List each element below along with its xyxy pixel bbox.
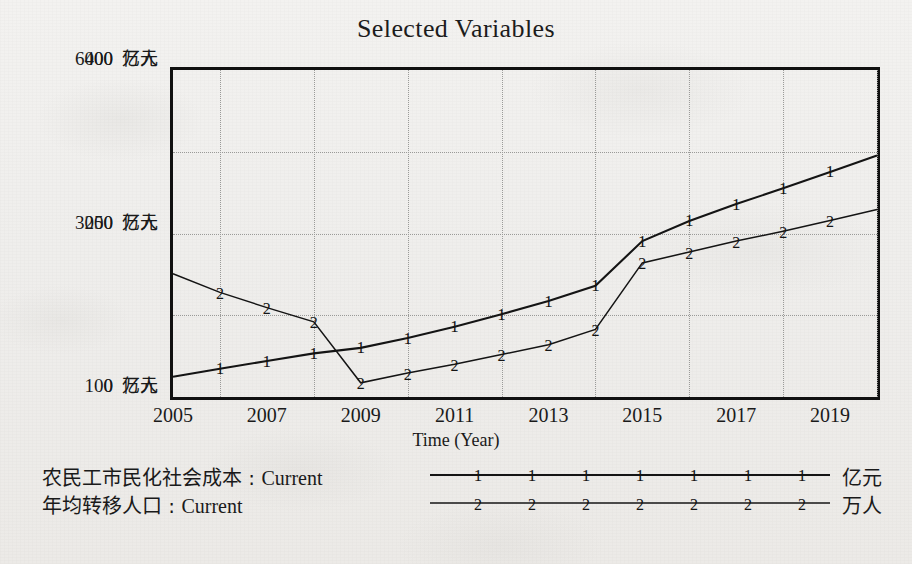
data-point-marker: 1 [263,352,272,371]
x-axis-tick-2015: 2015 [607,404,677,427]
chart-legend: 农民工市民化社会成本 : Current1111111亿元年均转移人口 : Cu… [42,462,882,518]
legend-marker: 2 [474,496,482,513]
legend-marker: 1 [528,466,537,485]
data-point-marker: 1 [403,329,412,348]
gridline-vertical [877,70,878,397]
x-axis-tick-2019: 2019 [795,404,865,427]
data-point-marker: 2 [591,322,599,339]
data-point-marker: 2 [544,337,552,354]
data-point-marker: 2 [826,213,834,230]
legend-marker: 2 [636,496,644,513]
legend-label: 农民工市民化社会成本 : Current [42,462,323,491]
data-point-marker: 1 [216,359,225,378]
data-point-marker: 1 [356,338,365,357]
data-point-marker: 2 [357,375,365,392]
y-axis-tick-right: 250万人 [6,212,166,233]
x-axis-title: Time (Year) [0,430,912,451]
data-point-marker: 1 [685,211,694,230]
data-point-marker: 2 [451,357,459,374]
legend-sample-line: 1111111 [430,462,830,488]
data-point-marker: 1 [310,344,319,363]
x-axis-tick-2009: 2009 [326,404,396,427]
legend-marker: 2 [690,496,698,513]
y-tick-value: 100 [55,375,113,396]
data-point-marker: 1 [591,276,600,295]
data-point-marker: 2 [779,224,787,241]
data-point-marker: 2 [310,314,318,331]
data-point-marker: 2 [638,255,646,272]
legend-marker: 2 [528,496,536,513]
legend-row[interactable]: 农民工市民化社会成本 : Current1111111亿元 [42,462,882,490]
x-axis-tick-2007: 2007 [232,404,302,427]
data-point-marker: 1 [497,305,506,324]
legend-marker: 1 [744,466,753,485]
data-point-marker: 1 [732,195,741,214]
data-point-marker: 2 [498,347,506,364]
legend-marker: 1 [582,466,591,485]
legend-marker: 2 [798,496,806,513]
data-point-marker: 1 [544,292,553,311]
legend-row[interactable]: 年均转移人口 : Current2222222万人 [42,490,882,518]
y-tick-unit: 万人 [113,375,166,396]
series-line-1 [173,156,877,377]
y-tick-value: 400 [55,48,113,69]
legend-marker: 1 [636,466,645,485]
x-axis-tick-2013: 2013 [513,404,583,427]
y-axis-tick-right: 400万人 [6,48,166,69]
data-point-marker: 1 [779,179,788,198]
data-point-marker: 2 [732,234,740,251]
y-tick-value: 250 [55,212,113,233]
legend-marker: 1 [798,466,807,485]
chart-figure: Selected Variables 6000亿元400万人3000亿元250万… [0,0,912,564]
y-axis-tick-right: 100万人 [6,375,166,396]
data-point-marker: 1 [826,162,835,181]
legend-marker: 2 [744,496,752,513]
legend-label: 年均转移人口 : Current [42,490,243,519]
data-point-marker: 1 [450,317,459,336]
series-lines: 1111111111111122222222222222 [173,70,877,397]
legend-sample-line: 2222222 [430,490,830,516]
legend-marker: 2 [582,496,590,513]
y-tick-unit: 万人 [113,212,166,233]
data-point-marker: 2 [685,245,693,262]
plot-area: 1111111111111122222222222222 [170,67,880,400]
legend-unit: 万人 [842,490,882,519]
legend-marker: 1 [474,466,483,485]
x-axis-tick-2011: 2011 [420,404,490,427]
x-axis-tick-2017: 2017 [701,404,771,427]
y-tick-unit: 万人 [113,48,166,69]
series-line-2 [173,210,877,383]
data-point-marker: 2 [263,300,271,317]
legend-unit: 亿元 [842,462,882,491]
x-axis-tick-2005: 2005 [138,404,208,427]
legend-marker: 1 [690,466,699,485]
data-point-marker: 2 [404,366,412,383]
data-point-marker: 2 [216,285,224,302]
chart-title: Selected Variables [0,14,912,44]
data-point-marker: 1 [638,232,647,251]
